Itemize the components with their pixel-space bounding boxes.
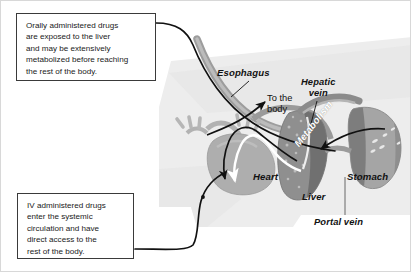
label-to-the-body: To the body [267,93,292,115]
label-heart: Heart [253,171,278,182]
label-liver: Liver [302,191,325,202]
label-portal-vein: Portal vein [314,216,363,227]
figure-canvas: Orally administered drugs are exposed to… [0,0,411,272]
label-stomach: Stomach [347,171,388,182]
callout-iv-administration: IV administered drugs enter the systemic… [17,193,134,259]
label-hepatic-vein: Hepatic vein [301,76,336,98]
callout-oral-administration: Orally administered drugs are exposed to… [16,13,156,81]
label-esophagus: Esophagus [217,67,270,78]
